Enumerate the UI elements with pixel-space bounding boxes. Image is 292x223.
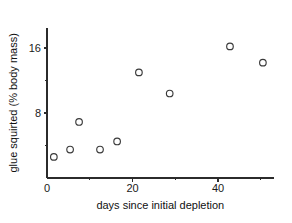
- chart-svg: 81602040days since initial depletionglue…: [0, 0, 292, 223]
- data-point-group: [51, 43, 267, 160]
- x-axis-tick-label: 20: [126, 182, 138, 194]
- y-axis-tick-label: 8: [35, 107, 41, 119]
- x-axis-tick-label: 40: [212, 182, 224, 194]
- data-point: [260, 59, 267, 66]
- data-point: [51, 154, 58, 161]
- x-axis-tick-label: 0: [44, 182, 50, 194]
- data-point: [114, 138, 121, 145]
- data-point: [227, 43, 234, 50]
- data-point: [67, 146, 74, 153]
- x-axis-label: days since initial depletion: [96, 199, 224, 211]
- data-point: [76, 119, 83, 126]
- y-axis-label: glue squirted (% body mass): [7, 33, 19, 172]
- y-axis-tick-label: 16: [29, 42, 41, 54]
- data-point: [166, 90, 173, 97]
- scatter-plot-figure: 81602040days since initial depletionglue…: [0, 0, 292, 223]
- data-point: [97, 146, 104, 153]
- data-point: [136, 69, 143, 76]
